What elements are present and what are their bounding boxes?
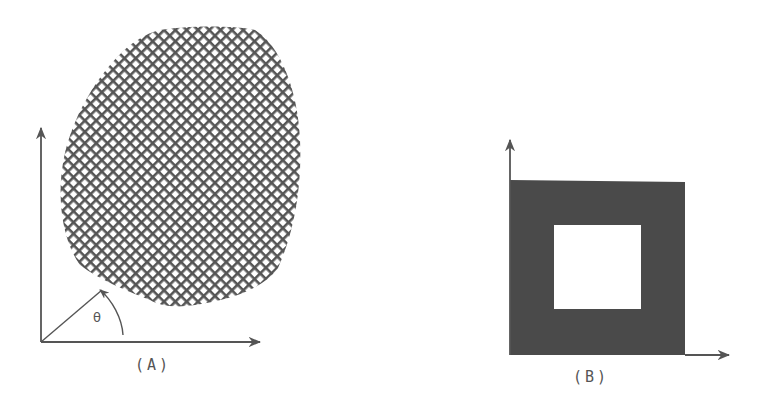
panel-b (510, 140, 729, 355)
panel-b-label: (B) (573, 368, 609, 386)
angle-theta-label: θ (93, 310, 101, 325)
crosshatch-region (61, 27, 301, 307)
solid-square-region-with-hole (510, 180, 685, 355)
figure-canvas (0, 0, 771, 406)
panel-a-label: (A) (135, 356, 171, 374)
panel-a (41, 27, 300, 342)
angle-arc (100, 290, 123, 335)
